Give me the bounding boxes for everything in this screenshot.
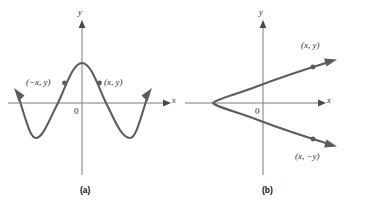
right-point-label: (x, y) [104,78,122,87]
even-function-curve [18,63,148,138]
origin-label-b: 0 [255,107,260,116]
panel-b: x y 0 (x, y) (x, −y) (b) [183,0,366,205]
panel-a-caption: (a) [80,186,90,195]
panel-b-caption: (b) [262,186,273,195]
y-axis-label-a: y [78,8,82,17]
point-marker-right-a [97,81,102,86]
lower-point-label: (x, −y) [295,152,320,161]
x-axis-arrow-a [163,100,171,107]
panel-b-graph [183,0,366,205]
x-axis-label-a: x [172,96,176,105]
curve-arrow-right-a [142,88,153,102]
curve-arrow-lower-b [324,140,337,148]
point-marker-left-a [62,81,67,86]
point-marker-upper-b [311,65,316,70]
figure-container: x y 0 (−x, y) (x, y) (a) x y [0,0,366,205]
panel-a-graph [0,0,183,205]
point-marker-lower-b [311,137,316,142]
panel-a: x y 0 (−x, y) (x, y) (a) [0,0,183,205]
x-axis-label-b: x [327,96,331,105]
curve-arrow-left-a [14,88,25,102]
x-axis-arrow-b [318,100,326,107]
left-point-label: (−x, y) [26,78,51,87]
y-axis-arrow-a [79,20,86,28]
origin-label-a: 0 [74,107,79,116]
upper-point-label: (x, y) [301,41,319,50]
y-axis-label-b: y [259,8,263,17]
y-axis-arrow-b [260,20,267,28]
curve-arrow-upper-b [324,59,337,67]
